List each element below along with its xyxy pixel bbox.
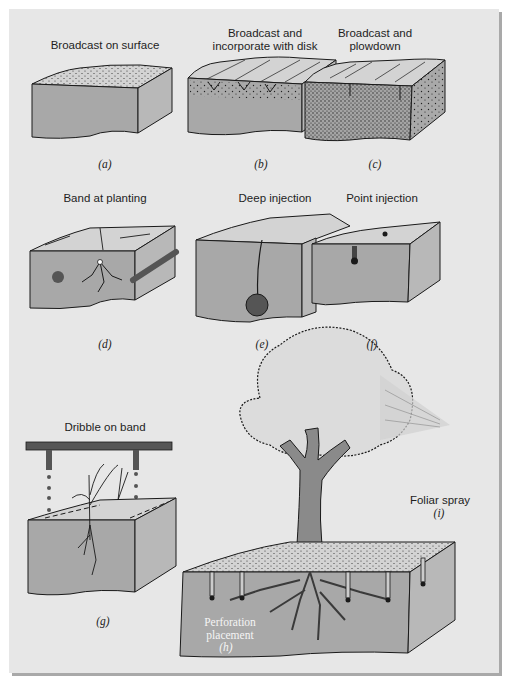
caption-f: Point injection <box>342 192 422 205</box>
caption-a: Broadcast on surface <box>40 39 170 52</box>
caption-c-line1: Broadcast and <box>330 27 420 40</box>
caption-c-line2: plowdown <box>330 40 420 53</box>
tag-a: (a) <box>90 158 120 170</box>
caption-i: Foliar spray <box>405 494 475 507</box>
caption-b-line2: incorporate with disk <box>200 40 330 53</box>
caption-h-line1: Perforation <box>195 616 265 629</box>
block-c-plowdown <box>305 59 445 141</box>
caption-h: Perforation placement <box>195 616 265 642</box>
tag-c: (c) <box>360 158 390 170</box>
caption-b: Broadcast and incorporate with disk <box>200 27 330 53</box>
block-d-band-planting <box>30 226 176 309</box>
caption-d: Band at planting <box>55 192 155 205</box>
caption-e: Deep injection <box>235 192 315 205</box>
caption-g: Dribble on band <box>55 421 155 434</box>
caption-b-line1: Broadcast and <box>200 27 330 40</box>
tag-i: (i) <box>424 507 454 519</box>
caption-c: Broadcast and plowdown <box>330 27 420 53</box>
block-a-broadcast-surface <box>32 65 172 138</box>
block-g-dribble-band <box>26 442 176 595</box>
tag-f: (f) <box>357 338 387 350</box>
tag-d: (d) <box>90 338 120 350</box>
tag-b: (b) <box>246 158 276 170</box>
tag-e: (e) <box>247 338 277 350</box>
block-f-point-injection <box>312 222 440 305</box>
tag-g: (g) <box>88 615 118 627</box>
block-h-i-tree <box>240 327 450 560</box>
tag-h: (h) <box>211 641 241 653</box>
